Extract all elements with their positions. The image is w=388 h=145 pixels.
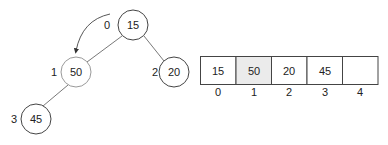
array: 15 0 50 1 20 2 45 3 4 bbox=[201, 57, 379, 99]
array-cell-index: 2 bbox=[286, 86, 292, 98]
array-cell: 15 0 bbox=[201, 57, 237, 99]
array-cell-value: 45 bbox=[319, 65, 331, 77]
tree-node-value: 20 bbox=[168, 66, 180, 78]
tree-node-value: 50 bbox=[70, 66, 82, 78]
array-cell: 50 1 bbox=[236, 57, 272, 99]
edge-0-2 bbox=[144, 36, 164, 61]
edge-1-3 bbox=[43, 85, 68, 106]
tree-node: 50 1 bbox=[51, 57, 91, 87]
array-cell-index: 1 bbox=[251, 86, 257, 98]
tree-node: 20 2 bbox=[152, 57, 189, 87]
tree-node: 45 3 bbox=[11, 104, 51, 134]
tree-node-index: 1 bbox=[51, 66, 57, 78]
edge-0-1 bbox=[87, 36, 122, 62]
array-cell-value: 50 bbox=[248, 65, 260, 77]
array-cell-value: 15 bbox=[212, 65, 224, 77]
tree-node-value: 15 bbox=[127, 19, 139, 31]
heap-diagram: 15 0 50 1 20 2 45 3 15 0 50 1 20 2 bbox=[0, 0, 388, 145]
tree-node-index: 2 bbox=[152, 66, 158, 78]
tree-node-value: 45 bbox=[30, 113, 42, 125]
tree-node: 15 0 bbox=[104, 10, 148, 40]
array-cell-index: 4 bbox=[357, 86, 363, 98]
array-cell-index: 3 bbox=[322, 86, 328, 98]
array-cell: 45 3 bbox=[307, 57, 343, 99]
array-cell-index: 0 bbox=[215, 86, 221, 98]
array-cell-box bbox=[343, 57, 379, 85]
array-cell: 4 bbox=[343, 57, 379, 99]
array-cell-value: 20 bbox=[283, 65, 295, 77]
array-cell: 20 2 bbox=[272, 57, 308, 99]
tree-node-index: 0 bbox=[104, 19, 110, 31]
tree-node-index: 3 bbox=[11, 113, 17, 125]
